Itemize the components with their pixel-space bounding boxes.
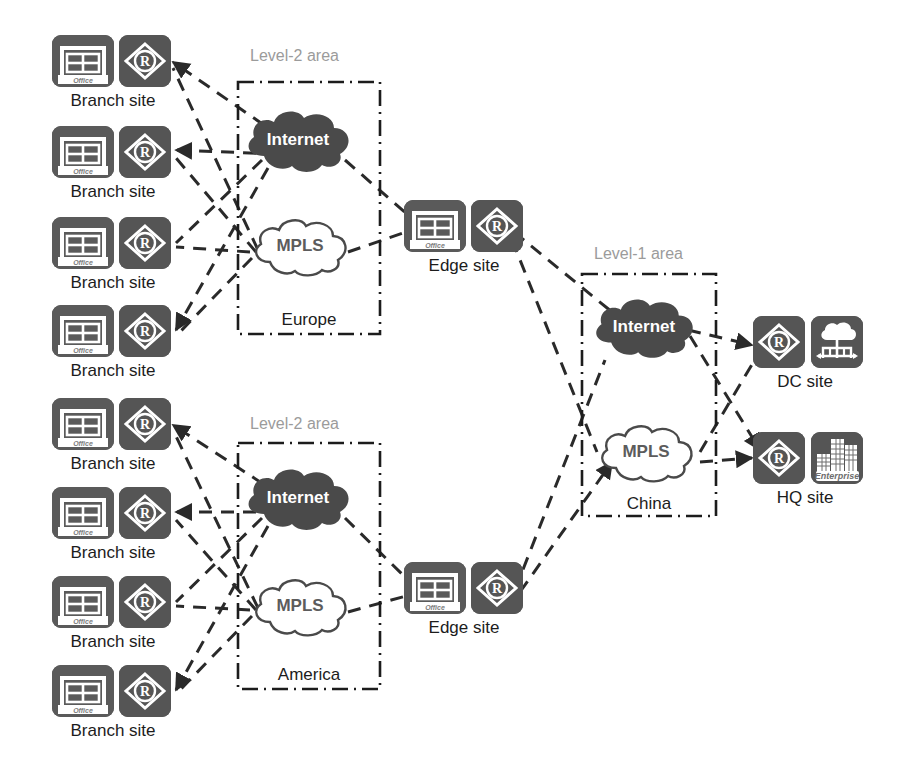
- router-icon: R: [119, 398, 171, 450]
- area-name-china: China: [580, 494, 718, 514]
- svg-text:R: R: [140, 324, 151, 339]
- svg-text:Office: Office: [73, 529, 93, 536]
- office-building-icon: Office: [52, 126, 114, 178]
- office-building-icon: Office: [52, 665, 114, 717]
- site-label-branch: Branch site: [48, 721, 178, 741]
- office-building-icon: Office: [52, 487, 114, 539]
- site-branch-america-2[interactable]: Office R Branch site: [52, 487, 171, 539]
- site-branch-america-3[interactable]: Office R Branch site: [52, 576, 171, 628]
- site-branch-america-1[interactable]: Office R Branch site: [52, 398, 171, 450]
- office-building-icon: Office: [52, 217, 114, 269]
- svg-text:Office: Office: [73, 440, 93, 447]
- network-diagram: Level-2 area Internet MPLS Europe Level-…: [0, 0, 922, 784]
- svg-text:Office: Office: [73, 347, 93, 354]
- svg-text:R: R: [140, 684, 151, 699]
- router-icon: R: [753, 316, 805, 368]
- cloud-europe-mpls: MPLS: [248, 216, 352, 278]
- svg-text:Office: Office: [73, 707, 93, 714]
- svg-text:R: R: [140, 595, 151, 610]
- router-icon: R: [119, 576, 171, 628]
- site-branch-europe-4[interactable]: Office R Branch site: [52, 305, 171, 357]
- office-building-icon: Office: [404, 200, 466, 252]
- cloud-datacenter-icon: [811, 316, 863, 368]
- router-icon: R: [119, 217, 171, 269]
- svg-text:R: R: [140, 145, 151, 160]
- office-building-icon: Office: [52, 576, 114, 628]
- cloud-china-internet: Internet: [588, 296, 700, 360]
- svg-text:R: R: [492, 581, 503, 596]
- site-label-branch: Branch site: [48, 182, 178, 202]
- area-caption-china: Level-1 area: [594, 245, 683, 263]
- router-icon: R: [119, 126, 171, 178]
- site-edge-top[interactable]: Office R Edge site: [404, 200, 523, 252]
- area-caption-europe: Level-2 area: [250, 47, 339, 65]
- site-branch-europe-3[interactable]: Office R Branch site: [52, 217, 171, 269]
- cloud-america-internet: Internet: [240, 466, 356, 532]
- svg-text:R: R: [140, 54, 151, 69]
- svg-text:R: R: [774, 451, 785, 466]
- router-icon: R: [471, 200, 523, 252]
- office-building-icon: Office: [52, 398, 114, 450]
- site-label-branch: Branch site: [48, 454, 178, 474]
- svg-text:R: R: [774, 335, 785, 350]
- svg-text:R: R: [492, 219, 503, 234]
- site-edge-bottom[interactable]: Office R Edge site: [404, 562, 523, 614]
- office-building-icon: Office: [404, 562, 466, 614]
- site-label-branch: Branch site: [48, 273, 178, 293]
- site-dc[interactable]: R DC site: [753, 316, 863, 368]
- site-label-hq: HQ site: [740, 488, 870, 508]
- svg-text:Office: Office: [425, 604, 445, 611]
- router-icon: R: [119, 305, 171, 357]
- svg-text:Enterprise: Enterprise: [815, 471, 860, 481]
- site-hq[interactable]: R: [753, 432, 863, 484]
- router-icon: R: [471, 562, 523, 614]
- svg-text:Office: Office: [425, 242, 445, 249]
- enterprise-buildings-icon: Enterprise: [811, 432, 863, 484]
- cloud-europe-internet: Internet: [240, 108, 356, 174]
- office-building-icon: Office: [52, 305, 114, 357]
- svg-text:R: R: [140, 417, 151, 432]
- svg-text:Office: Office: [73, 259, 93, 266]
- site-label-branch: Branch site: [48, 543, 178, 563]
- site-branch-europe-1[interactable]: Office R Branch site: [52, 35, 171, 87]
- svg-text:Office: Office: [73, 618, 93, 625]
- cloud-china-mpls: MPLS: [594, 422, 698, 484]
- router-icon: R: [119, 487, 171, 539]
- router-icon: R: [753, 432, 805, 484]
- svg-text:R: R: [140, 236, 151, 251]
- site-branch-america-4[interactable]: Office R Branch site: [52, 665, 171, 717]
- area-caption-america: Level-2 area: [250, 415, 339, 433]
- svg-text:Office: Office: [73, 77, 93, 84]
- site-label-edge: Edge site: [399, 618, 529, 638]
- svg-text:R: R: [140, 506, 151, 521]
- router-icon: R: [119, 665, 171, 717]
- svg-text:Office: Office: [73, 168, 93, 175]
- area-name-europe: Europe: [236, 310, 382, 330]
- site-label-branch: Branch site: [48, 91, 178, 111]
- cloud-america-mpls: MPLS: [248, 576, 352, 638]
- site-label-branch: Branch site: [48, 632, 178, 652]
- site-branch-europe-2[interactable]: Office R Branch site: [52, 126, 171, 178]
- router-icon: R: [119, 35, 171, 87]
- site-label-dc: DC site: [740, 372, 870, 392]
- site-label-branch: Branch site: [48, 361, 178, 381]
- site-label-edge: Edge site: [399, 256, 529, 276]
- area-name-america: America: [236, 665, 382, 685]
- office-building-icon: Office: [52, 35, 114, 87]
